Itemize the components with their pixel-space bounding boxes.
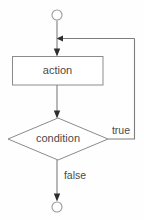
node-action-label: action — [43, 64, 72, 76]
node-condition-label: condition — [36, 132, 80, 144]
arrow-head-into-end — [54, 194, 60, 202]
edge-label-false: false — [64, 169, 86, 181]
arrow-head-into-action — [54, 49, 60, 57]
node-start-terminal — [52, 10, 62, 20]
flowchart-svg: action condition true false — [0, 0, 144, 220]
node-end-terminal — [52, 202, 62, 212]
arrow-head-into-condition — [54, 111, 60, 119]
flowchart-canvas: action condition true false — [0, 0, 144, 220]
edge-label-true: true — [112, 124, 130, 136]
